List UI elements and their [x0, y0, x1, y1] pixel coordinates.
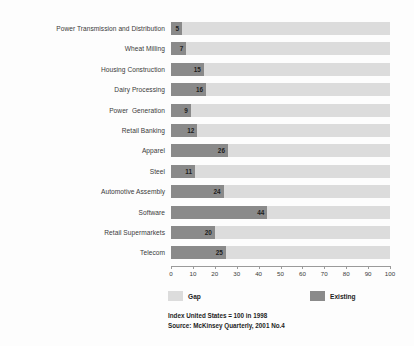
category-label: Steel: [0, 165, 168, 178]
chart-row: Retail Supermarkets20: [0, 226, 414, 239]
x-axis-tick: [215, 266, 216, 269]
category-label: Apparel: [0, 144, 168, 157]
chart-row: Apparel26: [0, 144, 414, 157]
x-axis-tick: [368, 266, 369, 269]
x-axis-tick: [281, 266, 282, 269]
x-axis-tick-label: 100: [385, 270, 395, 277]
category-label: Retail Supermarkets: [0, 226, 168, 239]
x-axis-tick: [302, 266, 303, 269]
category-label: Wheat Milling: [0, 42, 168, 55]
legend-swatch-gap: [168, 291, 183, 301]
chart-legend: Gap Existing: [0, 291, 414, 305]
category-label: Power Generation: [0, 104, 168, 117]
x-axis-tick-label: 0: [169, 270, 172, 277]
chart-row: Retail Banking12: [0, 124, 414, 137]
productivity-gap-bar-chart: Power Transmission and Distribution5Whea…: [0, 0, 414, 346]
category-label: Software: [0, 206, 168, 219]
bar-value-label: 25: [171, 246, 226, 259]
x-axis-tick-label: 50: [277, 270, 284, 277]
bar-gap: 7: [171, 42, 390, 55]
bar-gap: 15: [171, 63, 390, 76]
x-axis-tick: [259, 266, 260, 269]
bar-value-label: 7: [171, 42, 186, 55]
x-axis-tick: [193, 266, 194, 269]
bar-value-label: 44: [171, 206, 267, 219]
bar-value-label: 15: [171, 63, 204, 76]
chart-footnotes: Index United States = 100 in 1998 Source…: [168, 311, 285, 330]
category-label: Power Transmission and Distribution: [0, 22, 168, 35]
bar-value-label: 24: [171, 185, 224, 198]
chart-row: Housing Construction15: [0, 63, 414, 76]
chart-row: Software44: [0, 206, 414, 219]
bar-gap: 44: [171, 206, 390, 219]
x-axis-tick: [324, 266, 325, 269]
bar-gap: 5: [171, 22, 390, 35]
x-axis-tick: [237, 266, 238, 269]
bar-gap: 12: [171, 124, 390, 137]
chart-row: Automotive Assembly24: [0, 185, 414, 198]
bar-gap: 16: [171, 83, 390, 96]
bar-gap: 9: [171, 104, 390, 117]
bar-gap: 24: [171, 185, 390, 198]
chart-row: Power Transmission and Distribution5: [0, 22, 414, 35]
legend-label-gap: Gap: [188, 293, 201, 300]
x-axis-tick-label: 60: [299, 270, 306, 277]
category-label: Retail Banking: [0, 124, 168, 137]
bar-value-label: 5: [171, 22, 182, 35]
category-label: Housing Construction: [0, 63, 168, 76]
footnote-index-note: Index United States = 100 in 1998: [168, 311, 285, 321]
x-axis-tick-label: 40: [255, 270, 262, 277]
chart-row: Wheat Milling7: [0, 42, 414, 55]
x-axis-tick-label: 70: [321, 270, 328, 277]
x-axis-tick-label: 10: [189, 270, 196, 277]
bar-value-label: 12: [171, 124, 197, 137]
category-label: Dairy Processing: [0, 83, 168, 96]
bar-value-label: 16: [171, 83, 206, 96]
legend-label-existing: Existing: [330, 293, 356, 300]
x-axis-tick-label: 90: [365, 270, 372, 277]
category-label: Telecom: [0, 246, 168, 259]
category-label: Automotive Assembly: [0, 185, 168, 198]
chart-row: Dairy Processing16: [0, 83, 414, 96]
legend-item-existing: Existing: [310, 291, 356, 301]
bar-value-label: 20: [171, 226, 215, 239]
x-axis-tick: [346, 266, 347, 269]
chart-row: Steel11: [0, 165, 414, 178]
bar-gap: 26: [171, 144, 390, 157]
x-axis: 0102030405060708090100: [171, 266, 390, 286]
x-axis-tick: [390, 266, 391, 269]
bar-value-label: 11: [171, 165, 195, 178]
bar-gap: 25: [171, 246, 390, 259]
bar-gap: 11: [171, 165, 390, 178]
chart-rows: Power Transmission and Distribution5Whea…: [0, 22, 414, 267]
bar-gap: 20: [171, 226, 390, 239]
bar-value-label: 26: [171, 144, 228, 157]
x-axis-tick: [171, 266, 172, 269]
x-axis-tick-label: 80: [343, 270, 350, 277]
bar-value-label: 9: [171, 104, 191, 117]
chart-row: Power Generation9: [0, 104, 414, 117]
x-axis-tick-label: 20: [211, 270, 218, 277]
legend-swatch-existing: [310, 291, 325, 301]
chart-row: Telecom25: [0, 246, 414, 259]
legend-item-gap: Gap: [168, 291, 201, 301]
footnote-source-note: Source: McKinsey Quarterly, 2001 No.4: [168, 321, 285, 331]
x-axis-tick-label: 30: [233, 270, 240, 277]
